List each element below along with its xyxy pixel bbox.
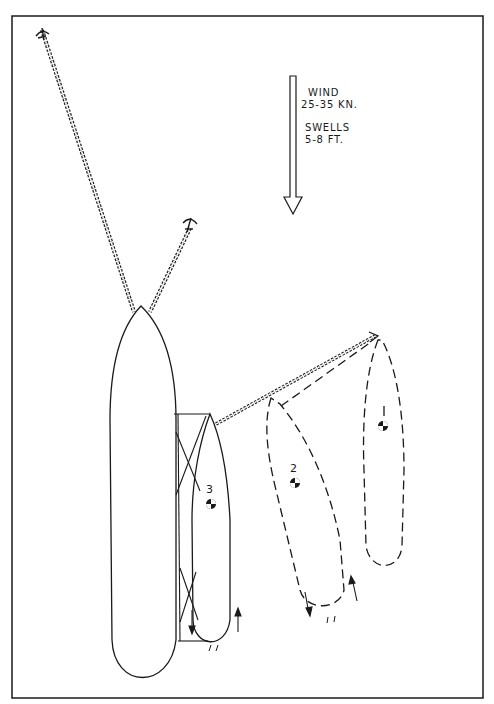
wind-speed: 25-35 KN. <box>301 99 358 110</box>
arrow-up-icon <box>349 576 357 601</box>
anchor-icon <box>36 28 49 40</box>
ship-3-hull <box>192 414 230 642</box>
large-ship-hull <box>110 306 176 678</box>
anchor-chain-port <box>42 30 134 312</box>
ship-2-bridle <box>281 342 371 406</box>
swells-label: SWELLS <box>305 122 350 133</box>
ship-2-hull <box>267 398 344 606</box>
arrow-down-icon <box>305 592 312 616</box>
arrow-down-icon <box>189 610 195 634</box>
tow-chain <box>216 336 375 424</box>
propeller-marks <box>327 616 335 623</box>
center-marker-icon <box>290 478 300 488</box>
diagram-canvas: WIND 25-35 KN. SWELLS 5-8 FT. 3 2 <box>0 0 494 704</box>
arrow-up-icon <box>235 608 241 632</box>
frame-border <box>12 16 483 698</box>
ship-2-label: 2 <box>290 462 297 475</box>
wind-label: WIND <box>308 87 339 98</box>
anchor-chain-starboard <box>150 228 190 312</box>
wind-arrow <box>284 76 302 214</box>
center-marker-icon <box>378 421 388 431</box>
swells-height: 5-8 FT. <box>305 134 344 145</box>
ship-3-label: 3 <box>206 483 213 496</box>
center-marker-icon <box>206 499 216 509</box>
ship-1-hull <box>364 340 404 566</box>
propeller-marks <box>209 645 218 651</box>
